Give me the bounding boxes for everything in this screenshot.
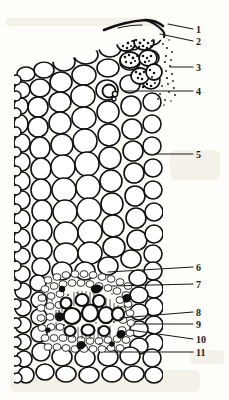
label-number-1: 1 xyxy=(196,25,201,35)
label-number-10: 10 xyxy=(196,335,206,345)
label-number-4: 4 xyxy=(196,87,201,97)
label-number-5: 5 xyxy=(196,150,201,160)
label-number-7: 7 xyxy=(196,280,201,290)
label-number-2: 2 xyxy=(196,37,201,47)
label-number-11: 11 xyxy=(196,348,205,358)
tissue-cross-section-figure xyxy=(0,0,229,400)
label-number-8: 8 xyxy=(196,308,201,318)
label-number-9: 9 xyxy=(196,320,201,330)
label-number-3: 3 xyxy=(196,63,201,73)
drawing-canvas xyxy=(0,0,229,400)
label-number-6: 6 xyxy=(196,263,201,273)
